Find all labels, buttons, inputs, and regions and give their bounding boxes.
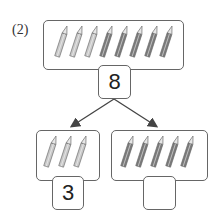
left-number-box: 3: [52, 176, 84, 210]
pencil-icon: [121, 135, 136, 167]
pencil-icon: [130, 25, 145, 57]
pencil-icon: [44, 135, 59, 167]
pencil-icon-group-left: [44, 135, 89, 167]
pencil-icon: [59, 135, 74, 167]
pencil-icon-group-total: [55, 25, 175, 57]
arrow-right-icon: [114, 99, 156, 126]
pencil-icon: [55, 25, 70, 57]
pencil-icon: [151, 135, 166, 167]
pencil-icon: [136, 135, 151, 167]
pencil-icon: [100, 25, 115, 57]
pencil-icon: [74, 135, 89, 167]
pencil-icon: [145, 25, 160, 57]
total-number-box: 8: [98, 65, 131, 99]
right-answer-box[interactable]: [143, 176, 176, 210]
pencil-icon: [85, 25, 100, 57]
pencil-icon: [115, 25, 130, 57]
arrow-left-icon: [72, 99, 114, 126]
pencil-and-arrow-graphics: [0, 0, 217, 216]
pencil-icon: [70, 25, 85, 57]
pencil-icon: [166, 135, 181, 167]
pencil-icon: [160, 25, 175, 57]
pencil-icon: [181, 135, 196, 167]
pencil-icon-group-right: [121, 135, 196, 167]
